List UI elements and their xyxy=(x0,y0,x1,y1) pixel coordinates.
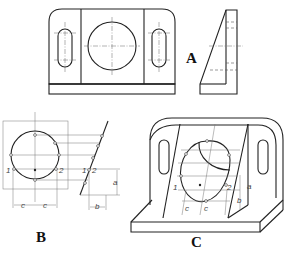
point-label-1-b-side: 1 xyxy=(82,166,86,175)
dim-a-b: a xyxy=(113,178,118,187)
point-label-1-c: 1 xyxy=(173,183,177,192)
point-label-2-c: 2 xyxy=(226,183,232,192)
point-label-2-b: 2 xyxy=(58,166,64,175)
dim-c-left-b: c xyxy=(21,201,25,210)
view-label-a: A xyxy=(186,50,197,66)
dim-c-right-b: c xyxy=(43,201,47,210)
point-label-1-b: 1 xyxy=(6,166,10,175)
view-label-c: C xyxy=(191,234,202,250)
dim-b-c: b xyxy=(237,196,242,205)
dim-c-left-c: c xyxy=(185,204,189,213)
view-a-side xyxy=(200,10,243,94)
view-a-front xyxy=(49,9,175,94)
dim-b-b: b xyxy=(95,202,100,211)
point-label-2-b-side: 2 xyxy=(91,166,97,175)
dim-a-c: a xyxy=(247,182,252,191)
view-b-construction xyxy=(3,112,120,210)
view-c-isometric xyxy=(131,118,283,232)
dim-c-right-c: c xyxy=(204,204,208,213)
technical-drawing: A 1 xyxy=(0,0,296,253)
view-label-b: B xyxy=(36,229,46,245)
